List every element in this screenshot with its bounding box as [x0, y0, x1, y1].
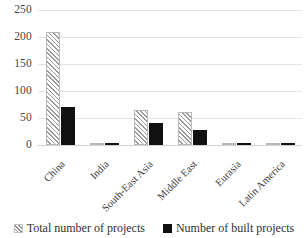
plot-region: 250 200 150 100 50 0 ChinaIndiaSouth-Eas…	[0, 10, 308, 155]
x-axis-label-slot: Middle East	[170, 157, 214, 215]
x-axis-label: China	[42, 159, 67, 184]
y-axis-tick: 0	[26, 139, 32, 151]
x-axis-label-slot: China	[38, 157, 82, 215]
bar-built-projects	[149, 123, 163, 145]
bar-total-projects	[46, 32, 60, 145]
y-axis-tick: 200	[14, 31, 32, 43]
legend-item-total: Total number of projects	[14, 222, 145, 234]
bar-group	[258, 10, 302, 145]
x-axis-label: India	[89, 159, 112, 182]
chart-legend: Total number of projects Number of built…	[0, 222, 308, 234]
bar-built-projects	[61, 107, 75, 145]
hatched-swatch-icon	[14, 224, 23, 233]
bar-group	[38, 10, 82, 145]
bar-total-projects	[134, 110, 148, 145]
y-axis-tick: 50	[20, 112, 32, 124]
legend-label: Total number of projects	[27, 222, 145, 234]
bar-total-projects	[222, 143, 236, 145]
bar-chart: 250 200 150 100 50 0 ChinaIndiaSouth-Eas…	[0, 0, 308, 238]
y-axis-tick: 150	[14, 58, 32, 70]
bar-total-projects	[178, 112, 192, 145]
x-axis-label-slot: Latin America	[258, 157, 302, 215]
legend-item-built: Number of built projects	[163, 222, 294, 234]
solid-black-swatch-icon	[163, 224, 172, 233]
x-axis-labels: ChinaIndiaSouth-East AsiaMiddle EastEura…	[38, 157, 302, 215]
x-axis-label: Eurasia	[214, 159, 244, 189]
axis-baseline	[38, 145, 302, 146]
legend-label: Number of built projects	[176, 222, 294, 234]
bar-built-projects	[105, 143, 119, 145]
bar-group	[214, 10, 258, 145]
y-axis: 250 200 150 100 50 0	[0, 10, 36, 145]
bar-groups	[38, 10, 302, 145]
bar-total-projects	[90, 143, 104, 145]
y-axis-tick: 250	[14, 4, 32, 16]
plot-area	[38, 10, 302, 145]
bar-built-projects	[237, 143, 251, 145]
bar-group	[82, 10, 126, 145]
bar-group	[126, 10, 170, 145]
y-axis-tick: 100	[14, 85, 32, 97]
bar-group	[170, 10, 214, 145]
bar-built-projects	[193, 130, 207, 145]
bar-built-projects	[281, 143, 295, 145]
bar-total-projects	[266, 143, 280, 145]
